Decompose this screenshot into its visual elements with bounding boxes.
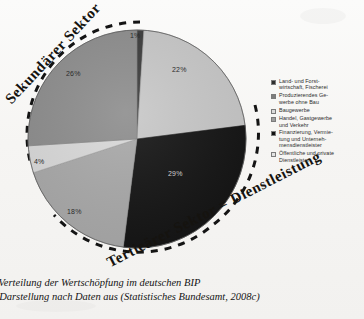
pie-label-finanzierung-vermietung: 29% — [168, 170, 183, 177]
chart-legend: Land- und Forst-wirtschaft, Fischerei Pr… — [271, 78, 361, 164]
caption-line-2: ene Darstellung nach Daten aus (Statisti… — [0, 290, 364, 304]
pie-label-land-forstwirtschaft: 1% — [130, 32, 141, 39]
legend-item-handel-gastgewerbe[interactable]: Handel, Gastgewerbeund Verkehr — [271, 115, 361, 128]
legend-item-oeffentliche-dienstleister[interactable]: Öffentliche und privateDienstleister — [271, 150, 361, 163]
pie-label-oeffentliche-dienstleister: 22% — [172, 66, 187, 73]
legend-swatch-icon — [271, 131, 276, 136]
legend-label: Finanzierung, Vermie-tung und Unterneh-m… — [279, 129, 333, 148]
legend-label: Öffentliche und privateDienstleister — [279, 150, 334, 163]
legend-label: Land- und Forst-wirtschaft, Fischerei — [279, 78, 328, 91]
legend-swatch-icon — [271, 152, 276, 157]
legend-swatch-icon — [271, 117, 276, 122]
figure-caption: 08: Verteilung der Wertschöpfung im deut… — [0, 276, 364, 304]
legend-swatch-icon — [271, 80, 276, 85]
pie-label-produzierendes-gewerbe: 26% — [66, 70, 81, 77]
figure-pie-chart: 1% 22% 29% 18% 4% 26% Sekundärer Sektor … — [0, 0, 364, 272]
legend-item-finanzierung-vermietung[interactable]: Finanzierung, Vermie-tung und Unterneh-m… — [271, 129, 361, 148]
legend-swatch-icon — [271, 109, 276, 114]
legend-label: Baugewerbe — [279, 107, 310, 113]
legend-swatch-icon — [271, 94, 276, 99]
pie-label-baugewerbe: 4% — [34, 158, 45, 165]
legend-item-land-forstwirtschaft[interactable]: Land- und Forst-wirtschaft, Fischerei — [271, 78, 361, 91]
caption-line-1: 08: Verteilung der Wertschöpfung im deut… — [0, 276, 364, 290]
pie-label-handel-gastgewerbe: 18% — [67, 208, 82, 215]
scanned-page: 1% 22% 29% 18% 4% 26% Sekundärer Sektor … — [0, 0, 364, 319]
legend-label: Produzierendes Ge-werbe ohne Bau — [279, 92, 328, 105]
legend-item-produzierendes-gewerbe[interactable]: Produzierendes Ge-werbe ohne Bau — [271, 92, 361, 105]
legend-item-baugewerbe[interactable]: Baugewerbe — [271, 107, 361, 114]
legend-label: Handel, Gastgewerbeund Verkehr — [279, 115, 332, 128]
